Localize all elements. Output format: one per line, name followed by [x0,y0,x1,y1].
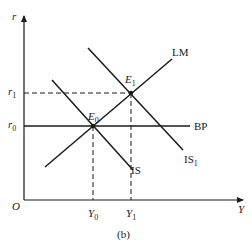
lm-label: LM [172,47,189,58]
y0-label: Y0 [88,208,98,222]
e1-label: E1 [125,74,136,88]
origin-label: O [12,201,20,212]
y-axis-label: r [12,11,16,22]
r1-label: r1 [8,86,16,100]
e1-point [129,91,133,95]
is-label: IS [131,165,141,176]
y1-label: Y1 [126,208,136,222]
lm-curve [45,59,172,167]
is1-curve [88,48,183,150]
bp-label: BP [194,121,207,132]
x-axis-label: Y [238,204,244,215]
r0-label: r0 [8,119,16,133]
figure-caption: (b) [117,229,130,240]
e0-label: E0 [88,111,99,125]
is1-label: IS1 [184,154,198,168]
